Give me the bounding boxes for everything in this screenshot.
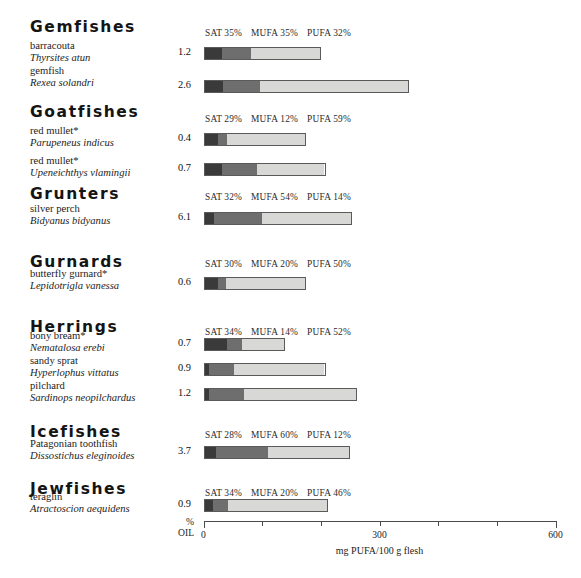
- legend-label-mufa: MUFA: [251, 259, 278, 269]
- legend-value-pufa: 14%: [333, 192, 351, 202]
- percent-oil-value: 0.7: [165, 337, 191, 348]
- legend-value-sat: 35%: [224, 28, 242, 38]
- bar-segment-sat: [205, 500, 213, 511]
- percent-oil-value: 3.7: [165, 445, 191, 456]
- legend-value-sat: 34%: [224, 488, 242, 498]
- stacked-bar: [204, 277, 306, 290]
- legend-value-mufa: 20%: [280, 488, 298, 498]
- bar-segment-mufa: [209, 389, 244, 400]
- legend-label-sat: SAT: [205, 488, 222, 498]
- bar-segment-mufa: [223, 81, 261, 92]
- stacked-bar: [204, 363, 326, 376]
- bar-segment-sat: [205, 447, 217, 458]
- bar-segment-pufa: [268, 447, 349, 458]
- bar-segment-mufa: [213, 500, 229, 511]
- bar-segment-sat: [205, 134, 219, 145]
- legend-value-mufa: 12%: [280, 114, 298, 124]
- bar-segment-mufa: [222, 48, 250, 59]
- percent-oil-value: 0.4: [165, 132, 191, 143]
- percent-oil-value: 6.1: [165, 211, 191, 222]
- bar-segment-pufa: [234, 364, 324, 375]
- legend-value-pufa: 12%: [333, 430, 351, 440]
- composition-percent-header: SAT35%MUFA35%PUFA32%: [205, 28, 360, 38]
- percent-oil-value: 0.9: [165, 498, 191, 509]
- legend-value-sat: 34%: [224, 327, 242, 337]
- x-axis-tick: [438, 521, 439, 526]
- percent-oil-value: 1.2: [165, 46, 191, 57]
- bar-segment-sat: [205, 48, 223, 59]
- percent-oil-value: 1.2: [165, 387, 191, 398]
- composition-percent-header: SAT32%MUFA54%PUFA14%: [205, 192, 360, 202]
- legend-value-pufa: 50%: [333, 259, 351, 269]
- bar-segment-pufa: [227, 134, 305, 145]
- bar-segment-mufa: [218, 134, 227, 145]
- legend-label-mufa: MUFA: [251, 28, 278, 38]
- x-axis-tick: [556, 521, 557, 528]
- legend-label-pufa: PUFA: [307, 430, 331, 440]
- bar-segment-mufa: [214, 213, 262, 224]
- x-axis-tick-label: 600: [536, 529, 576, 540]
- x-axis-tick: [321, 521, 322, 526]
- legend-label-pufa: PUFA: [307, 114, 331, 124]
- legend-value-sat: 32%: [224, 192, 242, 202]
- legend-label-sat: SAT: [205, 28, 222, 38]
- bar-segment-pufa: [244, 389, 355, 400]
- bar-segment-sat: [205, 213, 215, 224]
- bar-segment-pufa: [262, 213, 351, 224]
- x-axis-tick: [262, 521, 263, 526]
- stacked-bar: [204, 163, 326, 176]
- figure-canvas: GemfishesbarracoutaThyrsites atungemfish…: [0, 0, 581, 578]
- x-axis-tick: [380, 521, 381, 526]
- legend-value-sat: 29%: [224, 114, 242, 124]
- legend-label-mufa: MUFA: [251, 430, 278, 440]
- x-axis-title: mg PUFA/100 g flesh: [260, 545, 500, 556]
- legend-label-sat: SAT: [205, 327, 222, 337]
- legend-label-pufa: PUFA: [307, 488, 331, 498]
- legend-value-sat: 28%: [224, 430, 242, 440]
- legend-value-sat: 30%: [224, 259, 242, 269]
- composition-percent-header: SAT30%MUFA20%PUFA50%: [205, 259, 360, 269]
- stacked-bar: [204, 446, 351, 459]
- composition-percent-header: SAT34%MUFA14%PUFA52%: [205, 327, 360, 337]
- legend-label-pufa: PUFA: [307, 192, 331, 202]
- bar-plot-area: SAT35%MUFA35%PUFA32%1.22.6SAT29%MUFA12%P…: [0, 0, 581, 578]
- legend-value-mufa: 60%: [280, 430, 298, 440]
- legend-value-mufa: 14%: [280, 327, 298, 337]
- legend-label-pufa: PUFA: [307, 28, 331, 38]
- bar-segment-sat: [205, 81, 223, 92]
- composition-percent-header: SAT34%MUFA20%PUFA46%: [205, 488, 360, 498]
- bar-segment-pufa: [260, 81, 408, 92]
- legend-label-sat: SAT: [205, 259, 222, 269]
- legend-value-pufa: 46%: [333, 488, 351, 498]
- bar-segment-sat: [205, 339, 227, 350]
- percent-symbol: %: [160, 517, 194, 528]
- bar-segment-sat: [205, 164, 223, 175]
- legend-label-pufa: PUFA: [307, 327, 331, 337]
- legend-value-mufa: 20%: [280, 259, 298, 269]
- bar-segment-mufa: [218, 278, 226, 289]
- bar-segment-mufa: [216, 447, 268, 458]
- bar-segment-pufa: [226, 278, 304, 289]
- legend-value-pufa: 52%: [333, 327, 351, 337]
- composition-percent-header: SAT29%MUFA12%PUFA59%: [205, 114, 360, 124]
- bar-segment-pufa: [251, 48, 320, 59]
- bar-segment-pufa: [228, 500, 327, 511]
- legend-value-mufa: 35%: [280, 28, 298, 38]
- legend-label-mufa: MUFA: [251, 488, 278, 498]
- legend-label-sat: SAT: [205, 114, 222, 124]
- bar-segment-mufa: [209, 364, 234, 375]
- legend-label-pufa: PUFA: [307, 259, 331, 269]
- x-axis-tick: [204, 521, 205, 528]
- legend-label-sat: SAT: [205, 430, 222, 440]
- bar-segment-sat: [205, 278, 219, 289]
- stacked-bar: [204, 133, 306, 146]
- stacked-bar: [204, 338, 286, 351]
- legend-label-mufa: MUFA: [251, 327, 278, 337]
- stacked-bar: [204, 80, 409, 93]
- x-axis-tick-label: 300: [360, 529, 400, 540]
- stacked-bar: [204, 47, 321, 60]
- percent-oil-value: 0.9: [165, 362, 191, 373]
- x-axis-tick: [497, 521, 498, 526]
- oil-word: OIL: [160, 528, 194, 539]
- stacked-bar: [204, 499, 328, 512]
